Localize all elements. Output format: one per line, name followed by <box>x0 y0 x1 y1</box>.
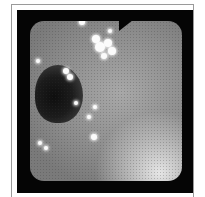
specular-highlight <box>63 68 69 74</box>
specular-highlight <box>44 146 48 150</box>
specular-highlight <box>67 74 73 80</box>
orientation-notch <box>119 21 133 31</box>
endoscopic-image <box>30 21 182 181</box>
specular-highlight <box>108 47 116 55</box>
specular-highlight <box>91 134 97 140</box>
specular-highlight <box>93 105 97 109</box>
specular-highlight <box>108 29 112 33</box>
specular-highlight <box>87 115 91 119</box>
endoscope-frame <box>17 10 193 193</box>
specular-highlight <box>101 53 107 59</box>
specular-highlight <box>74 101 78 105</box>
specular-highlight <box>36 59 40 63</box>
specular-highlight <box>38 141 42 145</box>
specular-highlight <box>104 39 112 47</box>
